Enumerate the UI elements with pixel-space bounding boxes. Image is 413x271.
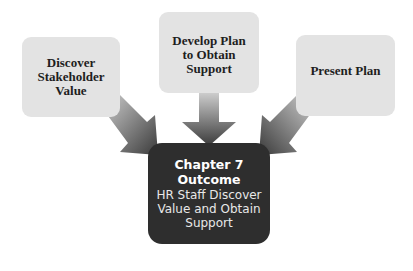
input-label: Discover Stakeholder Value xyxy=(37,56,104,98)
outcome-title: Chapter 7 Outcome xyxy=(174,157,243,187)
input-box-present-plan: Present Plan xyxy=(296,35,395,116)
input-box-develop-plan: Develop Plan to Obtain Support xyxy=(159,12,259,93)
arrow-center xyxy=(182,92,236,146)
input-box-discover-stakeholder-value: Discover Stakeholder Value xyxy=(22,37,120,117)
input-label: Present Plan xyxy=(310,64,380,78)
outcome-box: Chapter 7 Outcome HR Staff Discover Valu… xyxy=(148,143,270,244)
input-label: Develop Plan to Obtain Support xyxy=(172,34,245,76)
outcome-subtitle: HR Staff Discover Value and Obtain Suppo… xyxy=(156,188,261,230)
